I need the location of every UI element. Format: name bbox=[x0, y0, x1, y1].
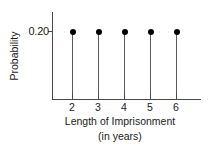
data-point-marker bbox=[122, 29, 128, 35]
x-axis-tick-mark bbox=[124, 93, 125, 100]
x-axis-tick-mark bbox=[176, 93, 177, 100]
data-point-marker bbox=[174, 29, 180, 35]
stem-line bbox=[150, 32, 151, 99]
data-point-marker bbox=[70, 29, 76, 35]
x-axis-tick-label: 3 bbox=[88, 101, 108, 113]
data-point-marker bbox=[96, 29, 102, 35]
stem-line bbox=[124, 32, 125, 99]
x-axis-tick-mark bbox=[98, 93, 99, 100]
data-point-marker bbox=[148, 29, 154, 35]
stem-line bbox=[176, 32, 177, 99]
x-axis-tick-mark bbox=[150, 93, 151, 100]
x-axis-tick-label: 6 bbox=[166, 101, 186, 113]
x-axis-tick-mark bbox=[72, 93, 73, 100]
probability-distribution-chart: 0.20 Probability 2 3 4 5 6 Length of Imp… bbox=[0, 0, 209, 149]
x-axis-tick-label: 5 bbox=[140, 101, 160, 113]
stem-line bbox=[98, 32, 99, 99]
x-axis-subtitle: (in years) bbox=[40, 130, 200, 142]
y-axis-title: Probability bbox=[8, 17, 20, 95]
x-axis-tick-label: 2 bbox=[62, 101, 82, 113]
x-axis-title: Length of Imprisonment bbox=[40, 115, 200, 127]
stem-line bbox=[72, 32, 73, 99]
y-axis-line bbox=[52, 12, 53, 100]
x-axis-tick-label: 4 bbox=[114, 101, 134, 113]
y-axis-tick-label: 0.20 bbox=[28, 25, 49, 37]
x-axis-line bbox=[52, 99, 201, 100]
